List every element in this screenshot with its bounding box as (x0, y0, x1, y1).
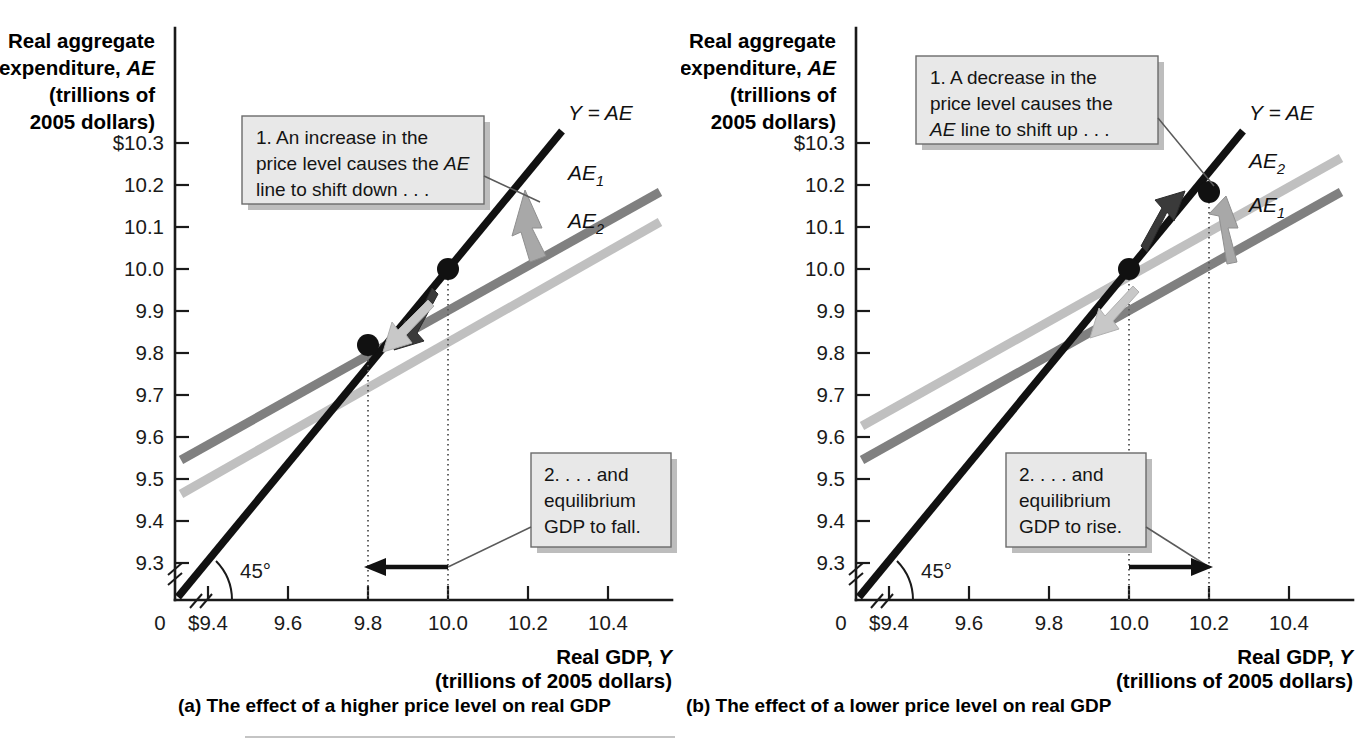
y-tick-label: 10.2 (124, 173, 164, 196)
x-axis-title-italic: Y (1339, 645, 1355, 668)
panel-b: Real aggregate expenditure, AE (trillion… (681, 0, 1371, 744)
movement-arrow-up-right (1141, 191, 1185, 252)
y-tick-label: 9.7 (817, 383, 846, 406)
y-axis-title-line2: expenditure, AE (0, 56, 156, 79)
y-tick-label: 10.2 (805, 173, 845, 196)
callout-line: equilibrium (1019, 490, 1111, 511)
panel-b-caption: (b) The effect of a lower price level on… (686, 695, 1112, 716)
x-tick-label: 10.2 (1189, 611, 1229, 634)
origin-label: 0 (835, 611, 846, 634)
y-tick-label: $10.3 (113, 131, 164, 154)
ae1-line-label-text: AE (566, 161, 597, 184)
x-tick-label: 9.6 (274, 611, 303, 634)
callout-line: 1. A decrease in the (930, 67, 1097, 88)
x-axis-title-line2: (trillions of 2005 dollars) (1116, 669, 1353, 692)
callout-line: 2. . . . and (544, 464, 629, 485)
x-tick-label: 10.4 (588, 611, 628, 634)
equilibrium-dot-initial (437, 258, 459, 280)
x-tick-label: 9.6 (955, 611, 984, 634)
y-tick-label: 9.4 (817, 509, 846, 532)
x-axis-tick-labels: $9.4 9.6 9.8 10.0 10.2 10.4 (869, 611, 1309, 634)
y-tick-label: 9.8 (136, 341, 165, 364)
y-tick-label: 9.3 (136, 551, 165, 574)
ae2-line-label: AE2 (1247, 149, 1285, 177)
y-tick-label: 9.5 (817, 467, 846, 490)
x-axis-tick-labels: $9.4 9.6 9.8 10.0 10.2 10.4 (188, 611, 628, 634)
ae2-line-label-sub: 2 (1276, 161, 1285, 177)
x-tick-label: 10.4 (1269, 611, 1309, 634)
y-tick-label: 9.7 (136, 383, 165, 406)
gdp-change-arrow-left (364, 558, 448, 576)
callout-line: equilibrium (544, 490, 636, 511)
x-tick-label: 9.8 (354, 611, 383, 634)
y-tick-label: 9.8 (817, 341, 846, 364)
panel-a-caption: (a) The effect of a higher price level o… (178, 695, 611, 716)
callout-line-text: line to shift up . . . (961, 119, 1110, 140)
callout-line: price level causes the AE (256, 153, 470, 174)
y-axis-title-line3: (trillions of (49, 83, 155, 106)
identity-line-label-text: Y = AE (1249, 101, 1315, 124)
y-axis-title-line2: expenditure, AE (681, 56, 837, 79)
y-axis-title-line4: 2005 dollars) (711, 110, 836, 133)
y-tick-label: 10.0 (124, 257, 164, 280)
equilibrium-dot-initial (1118, 258, 1140, 280)
figure-container: Real aggregate expenditure, AE (trillion… (0, 0, 1371, 744)
y-tick-label: 9.3 (817, 551, 846, 574)
callout-line: AE line to shift up . . . (929, 119, 1110, 140)
y-axis-title-line1: Real aggregate (8, 29, 155, 52)
ae2-line-label-text: AE (566, 209, 597, 232)
angle-label: 45° (240, 559, 271, 582)
ae1-line-label-text: AE (1247, 193, 1278, 216)
angle-arc (897, 561, 913, 600)
y-axis-title-line1: Real aggregate (689, 29, 836, 52)
shift-arrow-down (512, 190, 546, 262)
x-tick-label: 10.2 (508, 611, 548, 634)
y-axis-title-line2-prefix: expenditure, (681, 56, 808, 79)
angle-label: 45° (921, 559, 952, 582)
y-tick-label: 10.0 (805, 257, 845, 280)
ae2-line-label-sub: 2 (595, 221, 604, 237)
x-axis-title: Real GDP, Y (556, 645, 674, 668)
x-axis-title-line2: (trillions of 2005 dollars) (435, 669, 672, 692)
y-tick-label: 9.4 (136, 509, 165, 532)
ae2-line-label-text: AE (1247, 149, 1278, 172)
x-tick-label: 10.0 (1109, 611, 1149, 634)
bottom-rule (245, 734, 675, 744)
x-tick-label: 10.0 (428, 611, 468, 634)
ae1-line-label-sub: 1 (1277, 205, 1285, 221)
y-tick-label: 9.6 (817, 425, 846, 448)
x-axis-title: Real GDP, Y (1237, 645, 1355, 668)
callout-leader-line (484, 176, 540, 202)
callout-line: price level causes the (930, 93, 1113, 114)
y-axis-title-line2-italic: AE (807, 56, 838, 79)
x-tick-label: $9.4 (188, 611, 228, 634)
x-axis-ticks (208, 586, 608, 600)
y-axis-ticks (175, 143, 189, 563)
y-tick-label: $10.3 (794, 131, 845, 154)
callout-line: 2. . . . and (1019, 464, 1104, 485)
identity-line-label-text: Y = AE (568, 101, 634, 124)
panel-a: Real aggregate expenditure, AE (trillion… (0, 0, 690, 744)
callout-line: GDP to rise. (1019, 516, 1122, 537)
y-tick-label: 9.9 (136, 299, 165, 322)
callout-line-italic: AE (929, 119, 956, 140)
y-tick-label: 9.9 (817, 299, 846, 322)
ae1-line-label: AE1 (566, 161, 604, 189)
y-axis-title-line2-italic: AE (126, 56, 157, 79)
x-axis-title-prefix: Real GDP, (556, 645, 658, 668)
origin-label: 0 (154, 611, 165, 634)
equilibrium-dot-new (1198, 181, 1220, 203)
y-axis-title-line3: (trillions of (730, 83, 836, 106)
callout-line: line to shift down . . . (256, 179, 429, 200)
ae1-line-label-sub: 1 (596, 173, 604, 189)
y-axis-tick-labels: $10.3 10.2 10.1 10.0 9.9 9.8 9.7 9.6 9.5… (794, 131, 845, 574)
equilibrium-dot-new (357, 334, 379, 356)
y-tick-label: 9.5 (136, 467, 165, 490)
angle-arc (216, 561, 232, 600)
y-tick-label: 9.6 (136, 425, 165, 448)
identity-line-label: Y = AE (568, 101, 634, 124)
x-tick-label: $9.4 (869, 611, 909, 634)
callout-equilibrium-gdp-fall: 2. . . . and equilibrium GDP to fall. (448, 453, 677, 567)
y-axis-title-line2-prefix: expenditure, (0, 56, 127, 79)
x-tick-label: 9.8 (1035, 611, 1064, 634)
